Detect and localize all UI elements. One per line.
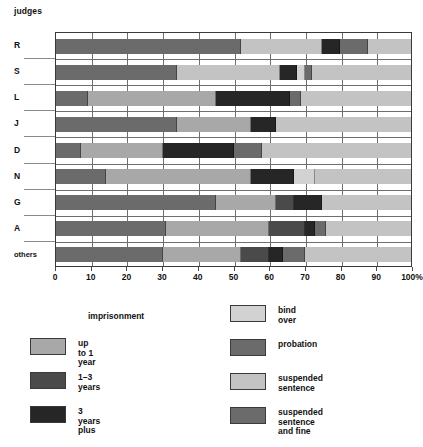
bar-segment-suspended_sentence	[322, 195, 411, 210]
y-tick-rule	[24, 241, 55, 242]
x-tick-0	[55, 267, 56, 271]
bar-segment-probation	[56, 169, 106, 184]
y-label-J: J	[14, 118, 19, 128]
x-tick-10	[91, 267, 92, 271]
bar-segment-suspended_sentence	[305, 247, 412, 262]
legend-swatch-suspended_sentence	[230, 373, 266, 390]
y-tick-rule	[24, 136, 55, 137]
bar-segment-suspended_sentence	[262, 143, 411, 158]
bar-segment-suspended_and_fine	[290, 91, 301, 106]
bar-segment-up_to_1_year	[166, 221, 269, 236]
x-label-10: 10	[86, 272, 95, 282]
bar-segment-bind_over	[294, 169, 315, 184]
legend-item-up_to_1_year[interactable]: up to 1 year	[30, 338, 95, 368]
bar-segment-probation	[56, 195, 216, 210]
bar-segment-up_to_1_year	[163, 247, 241, 262]
bar-A	[56, 221, 411, 236]
bar-segment-three_years_plus	[280, 65, 298, 80]
bar-segment-one_to_three_years	[276, 195, 294, 210]
bar-segment-up_to_1_year	[177, 117, 252, 132]
bar-segment-probation	[56, 91, 88, 106]
y-label-others: others	[14, 249, 37, 258]
legend-item-three_years_plus[interactable]: 3 years plus	[30, 406, 100, 436]
bar-segment-probation	[56, 39, 241, 54]
bar-G	[56, 195, 411, 210]
bar-others	[56, 247, 411, 262]
legend-item-suspended_sentence[interactable]: suspended sentence	[230, 373, 323, 393]
bar-segment-up_to_1_year	[216, 195, 276, 210]
x-tick-70	[305, 267, 306, 271]
legend-item-probation[interactable]: probation	[230, 339, 317, 356]
chart-legend: imprisonmentup to 1 year1–3 years3 years…	[0, 305, 422, 435]
y-label-G: G	[14, 197, 21, 207]
bar-segment-suspended_and_fine	[340, 39, 368, 54]
bar-L	[56, 91, 411, 106]
legend-item-suspended_and_fine[interactable]: suspended sentence and fine	[230, 407, 323, 437]
y-tick-rule	[24, 58, 55, 59]
bar-segment-up_to_1_year	[81, 143, 163, 158]
x-tick-100	[412, 267, 413, 271]
bar-segment-suspended_sentence	[326, 221, 411, 236]
x-label-60: 60	[264, 272, 273, 282]
x-tick-50	[234, 267, 235, 271]
legend-item-bind_over[interactable]: bind over	[230, 305, 296, 325]
y-label-L: L	[14, 92, 19, 102]
bar-segment-three_years_plus	[294, 195, 322, 210]
bar-segment-three_years_plus	[305, 221, 316, 236]
bar-segment-suspended_sentence	[241, 39, 323, 54]
bar-segment-three_years_plus	[269, 247, 283, 262]
x-label-90: 90	[372, 272, 381, 282]
bar-N	[56, 169, 411, 184]
legend-label-up_to_1_year: up to 1 year	[78, 338, 95, 368]
x-tick-90	[376, 267, 377, 271]
bar-segment-suspended_and_fine	[234, 143, 262, 158]
bar-segment-suspended_sentence	[301, 91, 411, 106]
y-label-S: S	[14, 66, 20, 76]
x-label-0: 0	[53, 272, 58, 282]
bar-segment-three_years_plus	[216, 91, 291, 106]
bar-segment-three_years_plus	[251, 169, 294, 184]
bar-segment-one_to_three_years	[269, 221, 305, 236]
bar-segment-probation	[56, 221, 166, 236]
bar-D	[56, 143, 411, 158]
x-tick-30	[162, 267, 163, 271]
x-label-50: 50	[229, 272, 238, 282]
legend-label-one_to_three_years: 1–3 years	[78, 372, 100, 392]
legend-swatch-three_years_plus	[30, 406, 66, 423]
y-tick-rule	[24, 189, 55, 190]
x-axis: 0102030405060708090100%	[55, 267, 412, 289]
y-label-N: N	[14, 171, 20, 181]
x-label-80: 80	[336, 272, 345, 282]
bar-segment-three_years_plus	[322, 39, 340, 54]
bar-segment-suspended_and_fine	[315, 221, 326, 236]
y-axis-labels: RSLJDNGAothers	[0, 32, 55, 267]
bar-segment-suspended_sentence	[312, 65, 411, 80]
bar-segment-up_to_1_year	[106, 169, 252, 184]
x-tick-40	[198, 267, 199, 271]
legend-item-one_to_three_years[interactable]: 1–3 years	[30, 372, 100, 392]
x-tick-60	[269, 267, 270, 271]
bar-segment-suspended_sentence	[276, 117, 411, 132]
y-label-A: A	[14, 223, 20, 233]
bar-S	[56, 65, 411, 80]
x-label-20: 20	[122, 272, 131, 282]
legend-label-probation: probation	[278, 339, 317, 350]
legend-label-suspended_and_fine: suspended sentence and fine	[278, 407, 323, 437]
y-tick-rule	[24, 84, 55, 85]
bar-segment-suspended_sentence	[177, 65, 280, 80]
x-label-100: 100%	[401, 272, 423, 282]
legend-swatch-bind_over	[230, 305, 266, 322]
y-tick-rule	[24, 215, 55, 216]
legend-label-suspended_sentence: suspended sentence	[278, 373, 323, 393]
x-label-30: 30	[157, 272, 166, 282]
legend-label-three_years_plus: 3 years plus	[78, 406, 100, 436]
x-tick-80	[341, 267, 342, 271]
bar-segment-bind_over	[297, 65, 304, 80]
legend-swatch-probation	[230, 339, 266, 356]
bar-R	[56, 39, 411, 54]
bar-segment-suspended_and_fine	[283, 247, 304, 262]
bar-segment-up_to_1_year	[88, 91, 216, 106]
bar-segment-suspended_sentence	[315, 169, 411, 184]
y-tick-rule	[24, 110, 55, 111]
